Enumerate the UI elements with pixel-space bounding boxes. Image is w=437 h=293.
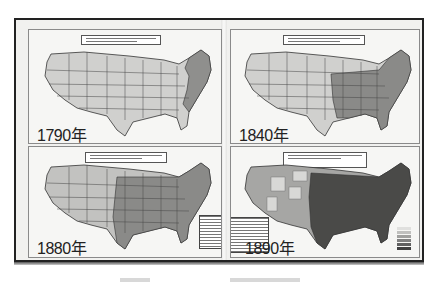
map-panel-1840: 1840年 <box>230 29 420 144</box>
caption-fragment <box>230 278 300 282</box>
map-panel-1890: 1890年 <box>230 146 420 258</box>
book-spread: 1790年 1840年 1880年 <box>14 18 424 262</box>
map-panel-1790: 1790年 <box>28 29 222 144</box>
map-legend <box>397 227 411 251</box>
map-panel-1880: 1880年 <box>28 146 222 258</box>
caption-fragment <box>120 278 150 282</box>
text-box <box>199 215 222 249</box>
year-label: 1840年 <box>239 122 288 144</box>
year-label: 1890年 <box>245 235 294 258</box>
year-label: 1880年 <box>37 235 86 258</box>
year-label: 1790年 <box>37 122 86 144</box>
page-edge <box>14 262 424 265</box>
